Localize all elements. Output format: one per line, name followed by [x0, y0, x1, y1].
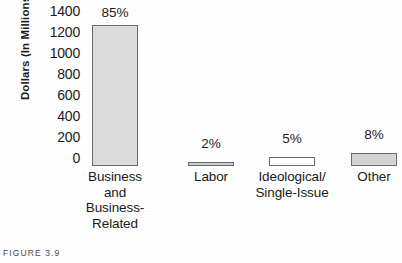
y-tick-1000: 1000: [22, 46, 80, 60]
bar-label-other: 8%: [364, 128, 384, 142]
bar-label-labor: 2%: [201, 137, 221, 151]
figure-container: Dollars (In Millions) 1400 1200 1000 800…: [0, 0, 402, 263]
bar-label-ideological: 5%: [282, 132, 302, 146]
y-axis-tick-labels: 1400 1200 1000 800 600 400 200 0: [22, 0, 80, 170]
category-line-business-1: Business: [80, 169, 150, 185]
plot-area: 85% 2% 5% 8%: [84, 0, 402, 166]
y-tick-0: 0: [22, 151, 80, 165]
category-line-business-4: Related: [80, 216, 150, 232]
x-axis-category-labels: Business and Business- Related Labor Ide…: [84, 169, 402, 239]
y-tick-600: 600: [22, 88, 80, 102]
category-line-other-1: Other: [342, 169, 402, 185]
bar-group-business: 85%: [84, 0, 146, 166]
category-line-business-2: and: [80, 185, 150, 201]
bar-labor: [188, 162, 234, 166]
figure-caption: FIGURE 3.9: [3, 248, 60, 258]
category-label-labor: Labor: [177, 169, 245, 185]
y-tick-1400: 1400: [22, 4, 80, 18]
category-label-other: Other: [342, 169, 402, 185]
y-tick-1200: 1200: [22, 25, 80, 39]
bar-group-labor: 2%: [180, 0, 242, 166]
y-tick-200: 200: [22, 130, 80, 144]
y-tick-400: 400: [22, 109, 80, 123]
category-label-business: Business and Business- Related: [80, 169, 150, 231]
bar-business: [92, 25, 138, 166]
bar-group-other: 8%: [343, 0, 402, 166]
bar-group-ideological: 5%: [259, 0, 325, 166]
y-tick-800: 800: [22, 67, 80, 81]
category-line-business-3: Business-: [80, 200, 150, 216]
category-label-ideological: Ideological/ Single-Issue: [247, 169, 337, 200]
bar-other: [351, 153, 397, 166]
category-line-ideological-2: Single-Issue: [247, 185, 337, 201]
category-line-ideological-1: Ideological/: [247, 169, 337, 185]
bar-ideological: [269, 157, 315, 166]
bar-label-business: 85%: [101, 6, 128, 20]
category-line-labor-1: Labor: [177, 169, 245, 185]
